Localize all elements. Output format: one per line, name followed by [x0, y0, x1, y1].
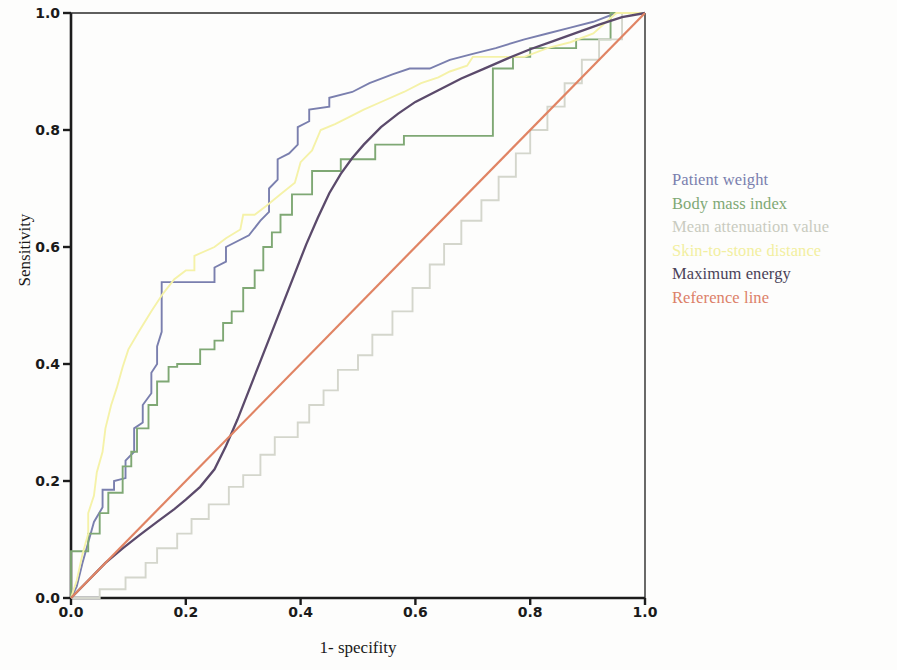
roc-figure: 0.00.20.40.60.81.0 0.00.20.40.60.81.0 1-…	[0, 0, 897, 670]
x-axis-title: 1- specifity	[0, 638, 716, 658]
series-line-5	[71, 13, 645, 598]
roc-plot-canvas	[0, 0, 897, 670]
x-tick-label: 0.2	[173, 604, 198, 620]
legend-item-5: Reference line	[672, 286, 896, 310]
chart-page: 0.00.20.40.60.81.0 0.00.20.40.60.81.0 1-…	[0, 0, 897, 670]
x-tick-label: 0.8	[518, 604, 543, 620]
legend-item-3: Skin-to-stone distance	[672, 239, 896, 263]
y-tick-label: 0.0	[20, 590, 60, 606]
legend-item-2: Mean attenuation value	[672, 215, 896, 239]
y-tick-label: 0.8	[20, 122, 60, 138]
x-tick-label: 0.4	[288, 604, 313, 620]
y-tick-label: 1.0	[20, 5, 60, 21]
chart-legend: Patient weightBody mass indexMean attenu…	[672, 168, 896, 309]
legend-item-4: Maximum energy	[672, 262, 896, 286]
y-tick-label: 0.2	[20, 473, 60, 489]
x-tick-label: 0.6	[403, 604, 428, 620]
curve-layer	[71, 13, 645, 598]
x-tick-label: 0.0	[59, 604, 84, 620]
legend-item-0: Patient weight	[672, 168, 896, 192]
legend-item-1: Body mass index	[672, 192, 896, 216]
x-tick-label: 1.0	[633, 604, 658, 620]
y-axis-title: Sensitivity	[15, 140, 35, 360]
